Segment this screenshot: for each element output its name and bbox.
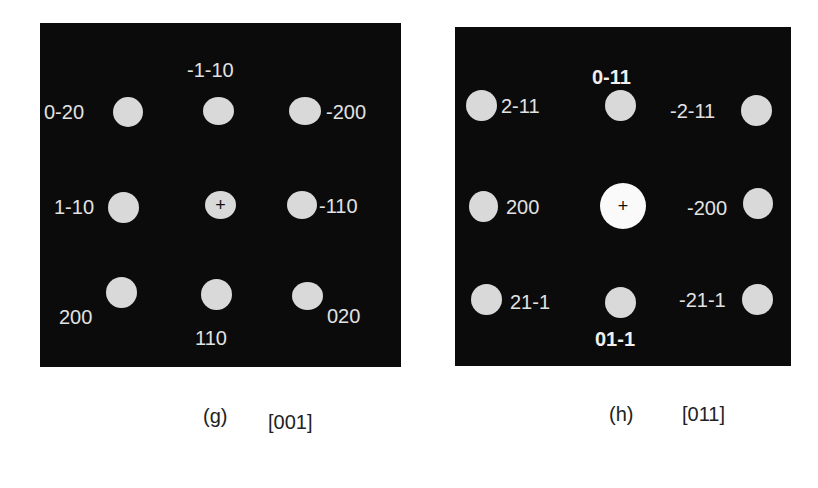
label-110: 110	[195, 328, 227, 348]
spot-0-20	[113, 97, 143, 127]
label-01-1: 01-1	[595, 329, 635, 349]
label-m2-11: -2-11	[670, 101, 715, 121]
spot-m200	[289, 97, 321, 125]
center-cross-icon: +	[215, 196, 226, 214]
label-2-11: 2-11	[501, 96, 540, 116]
spot-200	[469, 191, 498, 222]
spot-020	[292, 282, 323, 310]
diffraction-pattern-h: + 2-11 0-11 -2-11 200 -200 21-1 01-1 -21…	[455, 27, 791, 366]
label-m110: -110	[319, 196, 358, 216]
spot-1-10	[108, 192, 139, 223]
label-1-10: 1-10	[54, 197, 94, 217]
caption-zone-axis-h: [011]	[682, 404, 725, 424]
label-m1-m10: -1-10	[187, 60, 234, 80]
label-21-1: 21-1	[510, 292, 550, 312]
center-spot: +	[205, 191, 236, 219]
center-spot: +	[600, 183, 646, 229]
spot-m2-11	[741, 95, 772, 126]
spot-200	[106, 277, 137, 308]
spot-m21-1	[742, 284, 773, 315]
spot-21-1	[471, 284, 502, 315]
label-m21-1: -21-1	[679, 290, 726, 310]
caption-zone-axis-g: [001]	[268, 412, 312, 432]
spot-m200	[743, 188, 773, 219]
label-m200: -200	[326, 102, 366, 122]
label-200: 200	[59, 307, 92, 327]
spot-01-1	[605, 287, 636, 318]
label-020: 020	[327, 306, 360, 326]
label-0-11: 0-11	[592, 67, 631, 87]
label-m200: -200	[687, 198, 727, 218]
caption-letter-g: (g)	[203, 406, 227, 426]
label-0-20: 0-20	[44, 102, 84, 122]
spot-m110	[287, 191, 317, 219]
caption-letter-h: (h)	[609, 404, 633, 424]
label-200: 200	[506, 197, 539, 217]
spot-0-11	[605, 90, 636, 121]
diffraction-pattern-g: + 0-20 -1-10 -200 1-10 -110 200 110 020	[40, 23, 401, 367]
spot-m1-m10	[203, 97, 234, 125]
spot-2-11	[466, 90, 497, 121]
spot-110	[201, 279, 232, 310]
center-cross-icon: +	[618, 197, 629, 215]
